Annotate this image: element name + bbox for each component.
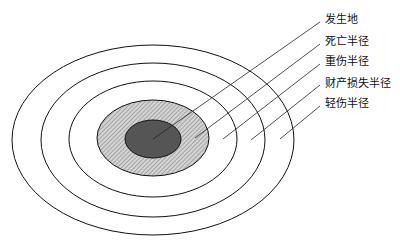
leader-serious: [223, 64, 320, 139]
label-death-radius: 死亡半径: [325, 36, 369, 48]
leader-light: [280, 106, 320, 139]
leader-property: [251, 85, 320, 140]
hazard-radius-diagram: 发生地 死亡半径 重伤半径 财产损失半径 轻伤半径: [0, 0, 400, 244]
label-origin: 发生地: [325, 14, 358, 26]
label-property-loss-radius: 财产损失半径: [325, 78, 391, 90]
label-light-injury-radius: 轻伤半径: [325, 98, 369, 110]
label-serious-injury-radius: 重伤半径: [325, 56, 369, 68]
leader-origin: [153, 22, 320, 139]
leader-death: [195, 44, 320, 138]
